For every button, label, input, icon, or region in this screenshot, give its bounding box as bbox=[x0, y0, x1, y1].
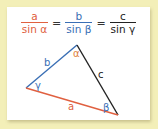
label-side-b: b bbox=[44, 57, 50, 68]
triangle-diagram: b c a α γ β bbox=[0, 0, 158, 129]
label-side-a: a bbox=[68, 101, 74, 112]
label-side-c: c bbox=[98, 69, 104, 80]
label-angle-beta: β bbox=[103, 102, 109, 113]
label-angle-gamma: γ bbox=[35, 80, 41, 91]
label-angle-alpha: α bbox=[73, 48, 80, 59]
side-b-line bbox=[26, 45, 77, 88]
